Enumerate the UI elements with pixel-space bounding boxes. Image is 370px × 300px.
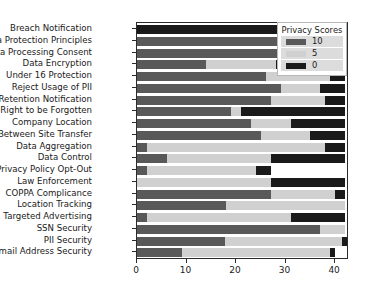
y-axis-label: Reject Usage of PII [12,83,92,92]
y-axis-label: PII Security [44,236,92,245]
y-axis-label: Privacy Policy Opt-Out [0,165,92,174]
bar-segment-5 [137,178,271,187]
bar-row [137,190,347,199]
bar-row [137,225,347,234]
bar-segment-5 [281,84,321,93]
y-axis-tick-mark [132,216,136,217]
bar-row [137,201,347,210]
legend-swatch-icon [286,51,306,57]
bar-segment-10 [137,166,147,175]
bar-segment-0 [325,143,345,152]
y-axis-tick-mark [132,146,136,147]
y-axis-tick-mark [132,193,136,194]
bar-segment-5 [271,96,325,105]
bar-segment-10 [137,143,147,152]
bar-row [137,213,347,222]
y-axis-tick-mark [132,169,136,170]
y-axis-tick-mark [132,228,136,229]
y-axis-label: COPPA Complicance [6,189,93,198]
y-axis-label: Between Site Transfer [0,130,92,139]
x-axis-tick-mark [334,259,335,263]
legend[interactable]: Privacy Scores 1050 [277,22,347,76]
legend-item-label: 10 [312,36,323,47]
y-axis-tick-mark [132,157,136,158]
x-axis-tick-mark [136,259,137,263]
bar-segment-10 [137,190,271,199]
bar-segment-0 [335,190,345,199]
y-axis-label: Data Protection Principles [0,36,92,45]
y-axis-tick-mark [132,134,136,135]
bar-segment-0 [291,119,345,128]
x-axis-tick-label: 40 [322,265,346,276]
y-axis-tick-mark [132,52,136,53]
y-axis-tick-mark [132,181,136,182]
y-axis-label: Data Encryption [23,59,92,68]
bar-segment-5 [147,143,325,152]
y-axis-tick-mark [132,240,136,241]
bar-segment-0 [291,213,345,222]
bar-segment-10 [137,131,261,140]
bar-segment-5 [147,166,256,175]
bar-segment-10 [137,119,251,128]
legend-item-0[interactable]: 0 [281,60,343,71]
bar-segment-5 [271,190,335,199]
bar-row [137,166,347,175]
bar-segment-10 [137,237,225,246]
y-axis-label: Company Location [12,118,92,127]
y-axis-label: Data Processing Consent [0,48,92,57]
x-axis-tick-label: 10 [174,265,198,276]
y-axis-tick-mark [132,40,136,41]
bar-segment-10 [137,248,182,257]
y-axis-tick-mark [132,110,136,111]
bar-segment-5 [231,107,241,116]
y-axis-tick-mark [132,99,136,100]
bar-segment-0 [271,154,345,163]
bar-segment-0 [325,96,345,105]
bar-segment-5 [226,201,345,210]
bar-segment-10 [137,225,320,234]
bar-row [137,178,347,187]
x-axis-tick-label: 30 [273,265,297,276]
y-axis-label: Law Enforcement [17,177,92,186]
x-axis-tick-label: 20 [223,265,247,276]
privacy-scores-chart: 010203040 Privacy Scores 1050 Breach Not… [0,0,370,300]
y-axis-tick-mark [132,75,136,76]
y-axis-label: Location Tracking [17,200,92,209]
x-axis-tick-label: 0 [124,265,148,276]
bar-row [137,131,347,140]
y-axis-tick-mark [132,204,136,205]
legend-swatch-icon [286,63,306,69]
bar-segment-10 [137,96,271,105]
bar-segment-0 [256,166,271,175]
bar-segment-5 [206,60,275,69]
legend-swatch-icon [286,39,306,45]
x-axis-tick-mark [186,259,187,263]
y-axis-tick-mark [132,251,136,252]
bar-segment-5 [182,248,331,257]
bar-row [137,237,347,246]
legend-item-label: 0 [312,60,317,71]
bar-row [137,119,347,128]
bar-segment-10 [137,107,231,116]
bar-segment-10 [137,84,281,93]
bar-row [137,143,347,152]
legend-item-5[interactable]: 5 [281,48,343,59]
legend-item-label: 5 [312,48,317,59]
legend-item-10[interactable]: 10 [281,36,343,47]
bar-segment-5 [251,119,291,128]
bar-segment-0 [330,248,335,257]
legend-entries: 1050 [281,36,343,71]
bar-row [137,96,347,105]
y-axis-label: SSN Security [37,224,92,233]
bar-segment-10 [137,72,266,81]
y-axis-tick-mark [132,63,136,64]
legend-title: Privacy Scores [281,25,343,35]
bar-segment-5 [167,154,271,163]
y-axis-label: Right to be Forgotten [0,106,92,115]
bar-row [137,248,347,257]
bar-segment-10 [137,201,226,210]
y-axis-tick-mark [132,87,136,88]
bar-segment-10 [137,154,167,163]
bar-segment-0 [310,131,345,140]
y-axis-label: Breach Notification [10,24,92,33]
